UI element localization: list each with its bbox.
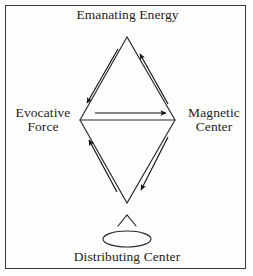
figure-container: Emanating Energy Evocative Force Magneti… [0, 0, 253, 276]
label-evocative-force: Evocative Force [6, 106, 80, 135]
arrow-magnetic-center-to-top [140, 54, 168, 104]
label-magnetic-center: Magnetic Center [178, 106, 250, 135]
distributing-caret-glyph [118, 215, 136, 226]
label-emanating-energy: Emanating Energy [50, 8, 205, 22]
energy-diamond-diagram [0, 0, 253, 276]
arrow-top-to-evocative-force [87, 49, 118, 103]
label-distributing-center: Distributing Center [44, 250, 210, 264]
arrow-bottom-to-evocative-force [89, 140, 117, 192]
arrow-magnetic-center-to-bottom [141, 137, 168, 190]
distributing-center-ellipse [103, 231, 151, 247]
